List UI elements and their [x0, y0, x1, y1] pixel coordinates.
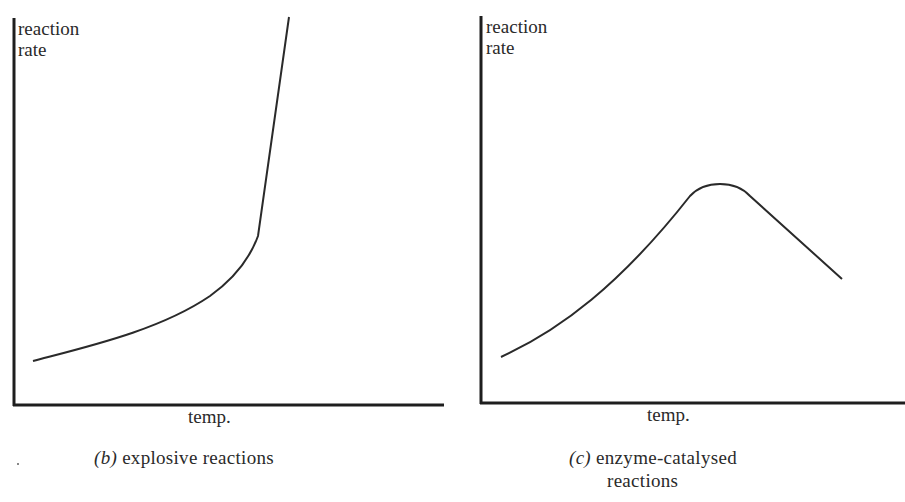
panel-c-caption-text-line1: enzyme-catalysed — [596, 447, 737, 468]
panel-c-axes — [480, 16, 905, 404]
panel-c-caption-line2: reactions — [607, 470, 678, 492]
panel-b-ylabel-line2: rate — [18, 40, 46, 60]
panel-c-ylabel-line2: rate — [486, 38, 514, 58]
panel-b-caption-text: explosive reactions — [122, 447, 274, 468]
panel-b-axes — [13, 18, 444, 406]
panel-c-caption-line1: (c) enzyme-catalysed — [569, 447, 737, 469]
panel-b-xlabel: temp. — [188, 407, 231, 427]
panel-c-curve — [501, 184, 842, 357]
figure-canvas — [0, 0, 905, 502]
panel-b-ylabel-line1: reaction — [18, 19, 79, 39]
panel-c-ylabel-line1: reaction — [486, 17, 547, 37]
panel-b-caption-letter: (b) — [94, 447, 117, 468]
stray-mark — [17, 463, 19, 465]
panel-c-xlabel: temp. — [647, 405, 690, 425]
panel-c-caption-letter: (c) — [569, 447, 591, 468]
panel-b-caption: (b) explosive reactions — [94, 447, 274, 469]
panel-b-curve — [33, 17, 289, 361]
